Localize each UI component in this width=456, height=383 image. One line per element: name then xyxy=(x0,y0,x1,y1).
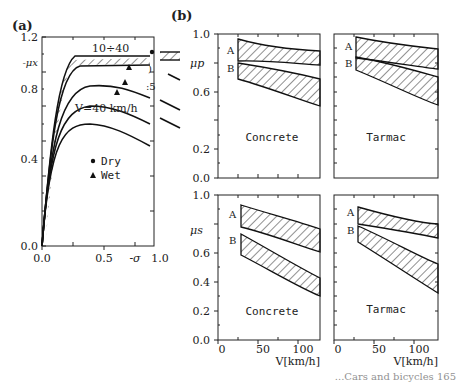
wet-marker-icon xyxy=(114,89,120,95)
x-axis-label: V[km/h] xyxy=(393,355,438,368)
subplot-tarmac-peak: A B Tarmac xyxy=(334,34,438,178)
svg-text::5: :5 xyxy=(146,81,156,92)
svg-text:0.8: 0.8 xyxy=(21,83,39,96)
svg-text:B: B xyxy=(229,235,236,246)
svg-text:A: A xyxy=(226,45,235,56)
svg-text:1.0: 1.0 xyxy=(193,189,211,202)
svg-text:50: 50 xyxy=(256,343,270,356)
legend-wet-label: Wet xyxy=(101,169,121,182)
svg-text:): ) xyxy=(148,63,152,74)
svg-text:1.0: 1.0 xyxy=(151,252,169,265)
wet-marker-icon xyxy=(122,79,128,85)
subplot-concrete-peak: 1.0 0.6 0.2 0.0 μp A B Concrete xyxy=(190,28,320,185)
svg-text:A: A xyxy=(346,207,355,218)
svg-text:V=40 km/h: V=40 km/h xyxy=(74,102,138,115)
svg-text:1.0: 1.0 xyxy=(193,28,211,41)
svg-text:0.2: 0.2 xyxy=(193,305,211,318)
surface-label: Tarmac xyxy=(366,131,406,144)
caption-fragment: ...Cars and bicycles 165 xyxy=(335,371,456,382)
svg-text:0.4: 0.4 xyxy=(21,153,39,166)
svg-text:0.4: 0.4 xyxy=(193,276,211,289)
legend-dry-icon xyxy=(91,159,95,163)
svg-text:0: 0 xyxy=(219,343,226,356)
surface-label: Concrete xyxy=(246,305,299,318)
svg-text:50: 50 xyxy=(372,343,386,356)
svg-text:10÷40: 10÷40 xyxy=(92,42,129,55)
subplot-concrete-slide: 1.0 0.6 0.4 0.2 0.0 μs A B Concrete 0 50… xyxy=(190,189,320,368)
svg-text:0.5: 0.5 xyxy=(95,252,113,265)
y-label-mu-s: μs xyxy=(190,224,203,237)
svg-text:0.0: 0.0 xyxy=(193,172,211,185)
panel-b: (b) 1.0 0.6 0.2 0.0 μp A B Concrete xyxy=(171,8,438,368)
svg-text:-μx: -μx xyxy=(22,57,38,68)
panel-a: (a) 1.2 -μx 0.8 0.4 0.0 0.0 0.5 -σ 1.0 xyxy=(12,18,180,265)
y-label-mu-p: μp xyxy=(190,57,204,70)
figure-canvas: (a) 1.2 -μx 0.8 0.4 0.0 0.0 0.5 -σ 1.0 xyxy=(0,0,456,383)
surface-label: Tarmac xyxy=(366,303,406,316)
svg-text:-σ: -σ xyxy=(129,252,141,265)
svg-text:0: 0 xyxy=(335,343,342,356)
legend-wet-icon xyxy=(90,172,96,178)
svg-text:0.0: 0.0 xyxy=(193,334,211,347)
panel-b-label: (b) xyxy=(171,8,192,23)
svg-text:1.2: 1.2 xyxy=(21,31,39,44)
surface-label: Concrete xyxy=(246,131,299,144)
svg-text:0.6: 0.6 xyxy=(193,247,211,260)
svg-text:0.6: 0.6 xyxy=(193,86,211,99)
svg-text:0.0: 0.0 xyxy=(33,252,51,265)
x-axis-label: V[km/h] xyxy=(275,355,320,368)
svg-text:0.2: 0.2 xyxy=(193,143,211,156)
svg-text:B: B xyxy=(345,58,352,69)
legend-dry-label: Dry xyxy=(101,155,121,168)
svg-text:A: A xyxy=(344,41,353,52)
subplot-tarmac-slide: A B Tarmac 0 50 100 V[km/h] xyxy=(334,195,438,368)
svg-text:A: A xyxy=(228,209,237,220)
dry-marker-icon xyxy=(150,50,154,54)
svg-text:B: B xyxy=(227,63,234,74)
svg-text:B: B xyxy=(347,225,354,236)
